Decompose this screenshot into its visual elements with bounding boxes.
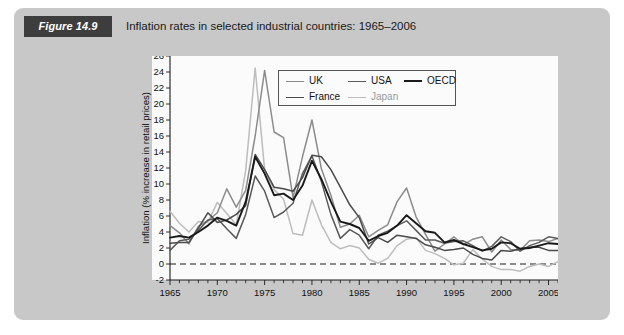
y-tick-label: 4 [159, 226, 164, 237]
y-tick-label: 6 [159, 210, 164, 221]
x-tick-label: 1985 [349, 287, 370, 296]
x-tick-label: 1970 [207, 287, 228, 296]
x-tick-label: 1975 [254, 287, 275, 296]
y-tick-label: 22 [153, 82, 164, 93]
legend-item-usa[interactable]: USA [341, 73, 392, 89]
legend-label: OECD [427, 73, 456, 89]
legend-row: FranceJapan [279, 89, 455, 105]
legend-label: USA [371, 73, 392, 89]
y-tick-label: 26 [153, 56, 164, 61]
y-tick-label: 8 [159, 194, 164, 205]
y-axis-title: Inflation (% increase in retail prices) [140, 92, 151, 244]
y-axis-title-text: Inflation (% increase in retail prices) [140, 92, 151, 244]
x-tick-label: 1995 [443, 287, 464, 296]
legend-swatch-usa-icon [348, 81, 366, 82]
figure-number-badge: Figure 14.9 [24, 16, 112, 37]
y-tick-label: 14 [153, 146, 164, 157]
legend-item-japan[interactable]: Japan [341, 89, 398, 105]
legend-row: UKUSAOECD [279, 73, 455, 89]
legend-item-oecd[interactable]: OECD [397, 73, 456, 89]
legend-label: France [309, 89, 340, 105]
y-tick-label: 12 [153, 162, 164, 173]
x-tick-label: 2000 [491, 287, 512, 296]
y-tick-label: 10 [153, 178, 164, 189]
figure-caption: Inflation rates in selected industrial c… [126, 16, 416, 37]
y-tick-label: 24 [153, 66, 164, 77]
x-tick-label: 1965 [159, 287, 180, 296]
figure-header: Figure 14.9 Inflation rates in selected … [14, 16, 610, 38]
y-tick-label: 20 [153, 98, 164, 109]
legend-label: UK [309, 73, 323, 89]
figure-panel: Figure 14.9 Inflation rates in selected … [14, 8, 610, 320]
y-tick-label: 18 [153, 114, 164, 125]
legend-label: Japan [371, 89, 398, 105]
legend-swatch-japan-icon [348, 97, 366, 98]
chart-area: -202468101214161820222426 19651970197519… [138, 56, 558, 296]
x-tick-label: 2005 [538, 287, 558, 296]
y-tick-label: 16 [153, 130, 164, 141]
x-axis: 196519701975198019851990199520002005 [159, 280, 558, 296]
legend-swatch-oecd-icon [404, 80, 422, 82]
legend-swatch-france-icon [286, 97, 304, 98]
y-tick-label: 2 [159, 242, 164, 253]
series-line-usa [170, 156, 558, 251]
series-line-oecd [170, 157, 558, 251]
y-tick-label: 0 [159, 258, 164, 269]
x-tick-label: 1990 [396, 287, 417, 296]
legend-item-uk[interactable]: UK [279, 73, 323, 89]
y-tick-label: -2 [156, 274, 164, 285]
legend-item-france[interactable]: France [279, 89, 340, 105]
y-axis: -202468101214161820222426 [153, 56, 170, 285]
legend-swatch-uk-icon [286, 81, 304, 82]
x-tick-label: 1980 [301, 287, 322, 296]
chart-legend: UKUSAOECDFranceJapan [278, 70, 456, 106]
